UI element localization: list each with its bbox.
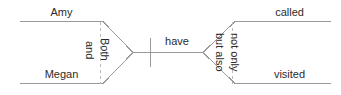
label-object-top: called [248,7,331,18]
label-predicate-have: have [155,36,199,47]
label-connector-and: and [84,41,95,59]
label-subject-bottom: Megan [20,69,103,80]
coordination-diagram: Amy Megan and Both have but also not onl… [0,0,341,95]
label-object-bottom: visited [248,69,331,80]
label-connector-but-also: but also [214,33,225,72]
label-connector-both: Both [99,38,110,61]
label-connector-not-only: not only [229,33,240,72]
label-subject-top: Amy [20,7,103,18]
